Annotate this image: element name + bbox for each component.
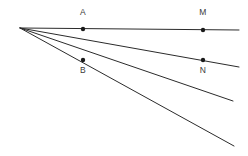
point-label-a: A: [80, 7, 86, 17]
ray-1-horizontal: [20, 28, 239, 30]
ray-2: [20, 28, 239, 67]
point-n-dot: [201, 58, 205, 62]
point-label-n: N: [200, 65, 206, 75]
point-group: [81, 27, 205, 62]
point-b-dot: [81, 58, 85, 62]
point-a-dot: [81, 27, 85, 31]
point-label-m: M: [199, 7, 206, 17]
point-m-dot: [201, 28, 205, 32]
point-label-b: B: [80, 65, 86, 75]
ray-group: [20, 28, 239, 146]
figure-canvas: A M B N: [0, 0, 248, 156]
ray-4: [20, 28, 234, 146]
geometry-figure: A M B N: [0, 0, 248, 156]
label-group: A M B N: [80, 7, 207, 75]
